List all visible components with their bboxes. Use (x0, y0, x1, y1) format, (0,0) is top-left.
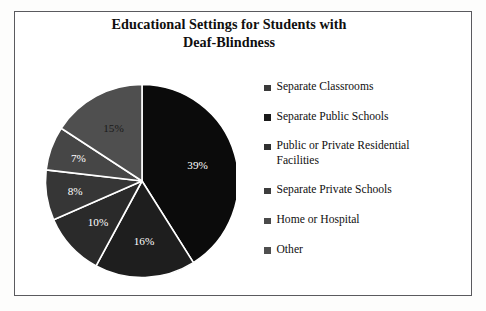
legend-item[interactable]: Separate Classrooms (264, 80, 464, 94)
chart-title-line-2: Deaf-Blindness (20, 34, 438, 52)
chart-title-line-1: Educational Settings for Students with (20, 16, 438, 34)
legend-item[interactable]: Separate Private Schools (264, 183, 464, 197)
legend-item-label: Home or Hospital (277, 213, 360, 227)
legend-swatch-icon (264, 114, 271, 121)
legend-swatch-icon (264, 188, 271, 195)
pie-slice-label: 39% (187, 159, 208, 171)
legend-item-label: Separate Classrooms (277, 80, 374, 94)
legend-item[interactable]: Separate Public Schools (264, 110, 464, 124)
chart-legend: Separate ClassroomsSeparate Public Schoo… (264, 80, 464, 272)
legend-swatch-icon (264, 85, 271, 92)
chart-page: Educational Settings for Students with D… (0, 0, 486, 311)
pie-slice-label: 15% (103, 122, 124, 134)
legend-swatch-icon (264, 144, 271, 151)
legend-item[interactable]: Home or Hospital (264, 213, 464, 227)
pie-slice-label: 8% (68, 185, 83, 197)
legend-swatch-icon (264, 247, 271, 254)
legend-item[interactable]: Public or Private Residential Facilities (264, 139, 464, 167)
legend-item-label: Separate Public Schools (277, 110, 389, 124)
pie-slice-label: 10% (88, 216, 109, 228)
chart-title: Educational Settings for Students with D… (20, 16, 438, 51)
pie-slice-label: 7% (71, 152, 86, 164)
legend-swatch-icon (264, 218, 271, 225)
legend-item-label: Public or Private Residential Facilities (277, 139, 449, 167)
legend-item[interactable]: Other (264, 243, 464, 257)
pie-chart: 39%16%10%8%7%15% (18, 60, 236, 280)
pie-slice-label: 16% (134, 235, 155, 247)
pie-slice-group (46, 85, 236, 278)
pie-chart-area: 39%16%10%8%7%15% (18, 60, 236, 280)
pie-chart-svg: 39%16%10%8%7%15% (18, 60, 236, 280)
legend-item-label: Separate Private Schools (277, 183, 392, 197)
legend-item-label: Other (277, 243, 303, 257)
